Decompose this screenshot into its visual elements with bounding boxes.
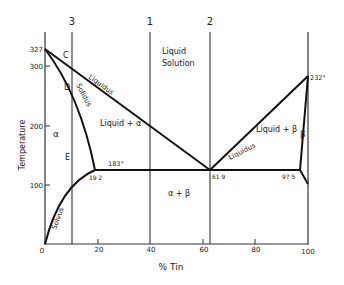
region-alpha-label: α <box>53 129 59 139</box>
line-label-3: 3 <box>69 16 75 27</box>
x-tick-80: 80 <box>252 246 261 254</box>
region-liquid-label: Liquid <box>162 47 186 56</box>
region-solution-label: Solution <box>162 59 195 68</box>
solvus-curve <box>45 170 95 244</box>
phase-diagram: 3 1 2 327 300 200 100 0 20 40 60 80 100 … <box>0 0 344 285</box>
tin-melt-label: 232° <box>310 74 326 82</box>
region-liquid-beta-label: Liquid + β <box>256 125 297 134</box>
beta-solidus-curve <box>300 76 308 170</box>
eutectic-comp-label: 61·9 <box>212 173 226 180</box>
x-axis-label: % Tin <box>159 262 184 272</box>
y-tick-327: 327 <box>30 46 43 54</box>
y-tick-300: 300 <box>30 63 43 71</box>
y-tick-100: 100 <box>30 182 43 190</box>
region-beta-label: β <box>300 129 306 139</box>
point-d-label: D <box>64 83 70 92</box>
eutectic-temp-label: 183° <box>108 160 124 168</box>
point-c-label: C <box>63 51 69 60</box>
line-label-2: 2 <box>207 16 213 27</box>
y-tick-200: 200 <box>30 123 43 131</box>
region-alpha-beta-label: α + β <box>168 189 190 198</box>
point-e-label: E <box>65 153 70 162</box>
beta-solvus-curve <box>300 170 308 184</box>
x-tick-100: 100 <box>301 248 314 256</box>
x-tick-60: 60 <box>200 246 209 254</box>
region-liquid-alpha-label: Liquid + α <box>100 119 141 128</box>
liquidus-right-label: Liquidus <box>227 141 257 162</box>
x-tick-0: 0 <box>40 247 44 255</box>
liquidus-right-curve <box>210 76 308 170</box>
beta-limit-label: 97·5 <box>282 173 296 180</box>
liquidus-left-label: Liquidus <box>87 73 116 97</box>
y-axis-label: Temperature <box>18 120 27 172</box>
solidus-label: Solidus <box>74 82 93 108</box>
x-tick-40: 40 <box>147 246 156 254</box>
line-label-1: 1 <box>147 16 153 27</box>
alpha-limit-label: 19·2 <box>89 174 103 181</box>
x-tick-20: 20 <box>95 246 104 254</box>
